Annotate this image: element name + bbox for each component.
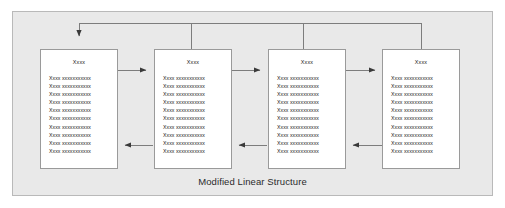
node-line: Xxxx xxxxxxxxxxx <box>49 90 117 98</box>
node-line: Xxxx xxxxxxxxxxx <box>277 74 345 82</box>
node-line: Xxxx xxxxxxxxxxx <box>163 90 231 98</box>
node-body: Xxxx xxxxxxxxxxx Xxxx xxxxxxxxxxx Xxxx x… <box>383 74 459 155</box>
node-line: Xxxx xxxxxxxxxxx <box>163 98 231 106</box>
node-title: Xxxx <box>155 59 231 66</box>
node-line: Xxxx xxxxxxxxxxx <box>391 147 459 155</box>
diagram-caption: Modified Linear Structure <box>12 176 493 187</box>
node-line: Xxxx xxxxxxxxxxx <box>277 90 345 98</box>
node-body: Xxxx xxxxxxxxxxx Xxxx xxxxxxxxxxx Xxxx x… <box>155 74 231 155</box>
node-line: Xxxx xxxxxxxxxxx <box>391 82 459 90</box>
diagram-screenshot: Xxxx Xxxx xxxxxxxxxxx Xxxx xxxxxxxxxxx X… <box>0 0 505 208</box>
node-box-1[interactable]: Xxxx Xxxx xxxxxxxxxxx Xxxx xxxxxxxxxxx X… <box>40 49 118 169</box>
node-line: Xxxx xxxxxxxxxxx <box>391 74 459 82</box>
node-line: Xxxx xxxxxxxxxxx <box>391 139 459 147</box>
node-line: Xxxx xxxxxxxxxxx <box>391 114 459 122</box>
node-line: Xxxx xxxxxxxxxxx <box>163 147 231 155</box>
node-line: Xxxx xxxxxxxxxxx <box>277 131 345 139</box>
node-line: Xxxx xxxxxxxxxxx <box>391 131 459 139</box>
node-line: Xxxx xxxxxxxxxxx <box>277 106 345 114</box>
node-line: Xxxx xxxxxxxxxxx <box>49 98 117 106</box>
node-line: Xxxx xxxxxxxxxxx <box>49 147 117 155</box>
node-line: Xxxx xxxxxxxxxxx <box>49 139 117 147</box>
node-body: Xxxx xxxxxxxxxxx Xxxx xxxxxxxxxxx Xxxx x… <box>269 74 345 155</box>
node-line: Xxxx xxxxxxxxxxx <box>277 82 345 90</box>
node-line: Xxxx xxxxxxxxxxx <box>49 106 117 114</box>
node-line: Xxxx xxxxxxxxxxx <box>277 123 345 131</box>
node-line: Xxxx xxxxxxxxxxx <box>277 139 345 147</box>
node-line: Xxxx xxxxxxxxxxx <box>49 74 117 82</box>
node-box-3[interactable]: Xxxx Xxxx xxxxxxxxxxx Xxxx xxxxxxxxxxx X… <box>268 49 346 169</box>
node-line: Xxxx xxxxxxxxxxx <box>49 131 117 139</box>
node-line: Xxxx xxxxxxxxxxx <box>277 98 345 106</box>
node-line: Xxxx xxxxxxxxxxx <box>391 98 459 106</box>
node-title: Xxxx <box>41 59 117 66</box>
node-line: Xxxx xxxxxxxxxxx <box>163 106 231 114</box>
node-line: Xxxx xxxxxxxxxxx <box>163 114 231 122</box>
node-title: Xxxx <box>269 59 345 66</box>
node-line: Xxxx xxxxxxxxxxx <box>49 82 117 90</box>
node-line: Xxxx xxxxxxxxxxx <box>277 114 345 122</box>
node-line: Xxxx xxxxxxxxxxx <box>163 139 231 147</box>
node-line: Xxxx xxxxxxxxxxx <box>391 123 459 131</box>
node-line: Xxxx xxxxxxxxxxx <box>163 82 231 90</box>
node-body: Xxxx xxxxxxxxxxx Xxxx xxxxxxxxxxx Xxxx x… <box>41 74 117 155</box>
node-line: Xxxx xxxxxxxxxxx <box>277 147 345 155</box>
node-line: Xxxx xxxxxxxxxxx <box>49 123 117 131</box>
node-line: Xxxx xxxxxxxxxxx <box>163 123 231 131</box>
node-line: Xxxx xxxxxxxxxxx <box>49 114 117 122</box>
node-box-4[interactable]: Xxxx Xxxx xxxxxxxxxxx Xxxx xxxxxxxxxxx X… <box>382 49 460 169</box>
node-title: Xxxx <box>383 59 459 66</box>
node-line: Xxxx xxxxxxxxxxx <box>391 90 459 98</box>
node-box-2[interactable]: Xxxx Xxxx xxxxxxxxxxx Xxxx xxxxxxxxxxx X… <box>154 49 232 169</box>
node-line: Xxxx xxxxxxxxxxx <box>163 131 231 139</box>
node-line: Xxxx xxxxxxxxxxx <box>391 106 459 114</box>
node-line: Xxxx xxxxxxxxxxx <box>163 74 231 82</box>
